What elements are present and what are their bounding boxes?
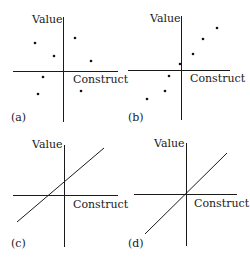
x-axis-label: Construct bbox=[73, 73, 129, 86]
panel-label: (d) bbox=[128, 237, 144, 250]
x-axis-label: Construct bbox=[73, 198, 129, 211]
y-axis-label: Value bbox=[153, 137, 185, 150]
panel-label: (b) bbox=[128, 111, 144, 124]
data-point bbox=[90, 60, 93, 63]
data-point bbox=[192, 53, 195, 56]
data-point bbox=[146, 98, 149, 101]
panel-label: (a) bbox=[11, 111, 26, 124]
data-point bbox=[74, 37, 77, 40]
x-axis-label: Construct bbox=[190, 72, 246, 85]
data-point bbox=[34, 42, 37, 45]
data-point bbox=[164, 90, 167, 93]
data-point bbox=[37, 93, 40, 96]
x-axis-label: Construct bbox=[194, 197, 250, 210]
data-point bbox=[216, 27, 219, 30]
data-point bbox=[202, 38, 205, 41]
panel-b: Value Construct (b) bbox=[128, 12, 246, 124]
data-point bbox=[53, 55, 56, 58]
y-axis-label: Value bbox=[149, 12, 181, 25]
panel-a: Value Construct (a) bbox=[11, 13, 129, 124]
panel-d: Value Construct (d) bbox=[128, 137, 250, 250]
data-point bbox=[179, 63, 182, 66]
data-point bbox=[42, 76, 45, 79]
value-construct-diagram: Value Construct (a) Value Construct (b) … bbox=[0, 0, 250, 262]
y-axis-label: Value bbox=[31, 138, 63, 151]
data-point bbox=[80, 90, 83, 93]
y-axis-label: Value bbox=[31, 13, 63, 26]
data-point bbox=[168, 75, 171, 78]
panel-label: (c) bbox=[11, 237, 26, 250]
panel-c: Value Construct (c) bbox=[11, 138, 129, 250]
